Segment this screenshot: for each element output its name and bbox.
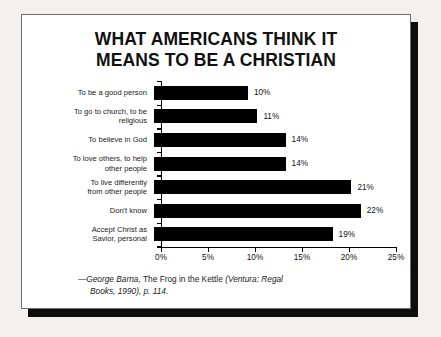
x-axis-tick <box>302 247 303 252</box>
category-label-line-1: Don't know <box>110 206 147 215</box>
category-label-line-1: To live differently <box>91 178 147 187</box>
figure-root: WHAT AMERICANS THINK IT MEANS TO BE A CH… <box>0 0 441 337</box>
citation-work-title: The Frog in the Kettle <box>143 274 223 284</box>
chart-row: To believe in God 14% <box>30 128 404 152</box>
category-label: To go to church, to be religious <box>30 107 154 126</box>
x-axis-tick <box>349 247 350 252</box>
y-axis-tick <box>157 152 162 153</box>
category-label-line-1: To love others, to help <box>73 154 147 163</box>
bar-value-label: 14% <box>292 159 308 168</box>
bar-value-label: 19% <box>339 230 355 239</box>
chart-title-line-1: WHAT AMERICANS THINK IT <box>22 29 410 50</box>
category-label-line-2: other people <box>30 164 147 173</box>
bar[interactable] <box>154 204 361 218</box>
category-label-line-1: To believe in God <box>88 135 147 144</box>
bar[interactable] <box>154 227 333 241</box>
category-label: Don't know <box>30 206 154 215</box>
citation-publication-line-1: (Ventura: Regal <box>225 274 283 284</box>
bar-zone: 14% <box>154 152 404 176</box>
category-label-line-2: from other people <box>30 187 147 196</box>
category-label: Accept Christ as Savior, personal <box>30 225 154 244</box>
source-citation: —George Barna, The Frog in the Kettle (V… <box>78 273 378 297</box>
x-axis-label: 10% <box>247 253 263 262</box>
x-axis-tick <box>396 247 397 252</box>
bar-rows: To be a good person 10% To go to church,… <box>30 81 404 246</box>
bar-zone: 19% <box>154 223 404 247</box>
bar-zone: 22% <box>154 199 404 223</box>
y-axis-tick <box>157 128 162 129</box>
x-axis-line <box>161 247 396 248</box>
chart-title: WHAT AMERICANS THINK IT MEANS TO BE A CH… <box>22 29 410 70</box>
y-axis-tick <box>157 175 162 176</box>
plot-area: To be a good person 10% To go to church,… <box>30 81 404 271</box>
chart-row: To go to church, to be religious 11% <box>30 105 404 129</box>
chart-title-line-2: MEANS TO BE A CHRISTIAN <box>22 50 410 71</box>
category-label: To live differently from other people <box>30 178 154 197</box>
category-label-line-1: To be a good person <box>78 88 147 97</box>
category-label-line-2: Savior, personal <box>30 234 147 243</box>
y-axis-tick <box>157 81 162 82</box>
x-axis-label: 15% <box>294 253 310 262</box>
y-axis-tick <box>157 223 162 224</box>
category-label-line-1: Accept Christ as <box>92 225 147 234</box>
chart-row: To live differently from other people 21… <box>30 175 404 199</box>
citation-publication-line-2: Books, 1990), p. 114. <box>78 285 378 297</box>
category-label: To believe in God <box>30 135 154 144</box>
chart-row: Don't know 22% <box>30 199 404 223</box>
bar-value-label: 10% <box>254 88 270 97</box>
x-axis-tick <box>208 247 209 252</box>
bar[interactable] <box>154 86 248 100</box>
category-label: To be a good person <box>30 88 154 97</box>
y-axis-tick <box>157 105 162 106</box>
category-label-line-1: To go to church, to be <box>74 107 147 116</box>
bar-value-label: 22% <box>367 206 383 215</box>
bar-value-label: 21% <box>357 183 373 192</box>
bar-zone: 14% <box>154 128 404 152</box>
y-axis-tick <box>157 199 162 200</box>
bar-zone: 10% <box>154 81 404 105</box>
bar-zone: 21% <box>154 175 404 199</box>
bar[interactable] <box>154 133 286 147</box>
x-axis-label: 5% <box>202 253 214 262</box>
bar[interactable] <box>154 180 351 194</box>
chart-panel: WHAT AMERICANS THINK IT MEANS TO BE A CH… <box>21 14 411 309</box>
bar[interactable] <box>154 109 257 123</box>
chart-row: To be a good person 10% <box>30 81 404 105</box>
category-label-line-2: religious <box>30 116 147 125</box>
bar[interactable] <box>154 157 286 171</box>
category-label: To love others, to help other people <box>30 154 154 173</box>
chart-row: To love others, to help other people 14% <box>30 152 404 176</box>
x-axis-label: 25% <box>388 253 404 262</box>
bar-value-label: 14% <box>292 135 308 144</box>
x-axis-label: 0% <box>155 253 167 262</box>
x-axis-tick <box>255 247 256 252</box>
chart-row: Accept Christ as Savior, personal 19% <box>30 223 404 247</box>
x-axis-tick <box>161 247 162 252</box>
x-axis-label: 20% <box>341 253 357 262</box>
citation-attribution: —George Barna, <box>78 274 141 284</box>
bar-value-label: 11% <box>263 112 279 121</box>
bar-zone: 11% <box>154 105 404 129</box>
